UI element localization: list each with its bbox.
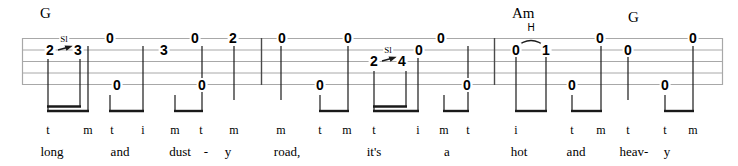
fret-number: 0 [197, 78, 208, 92]
chord-label-g-2: G [628, 10, 639, 25]
hammer-on-label: H [526, 23, 535, 33]
fret-number: 0 [660, 78, 671, 92]
lyric-syllable-hyphen: - [204, 145, 208, 158]
fingering-letter: m [439, 124, 448, 136]
lyric-word: y [225, 145, 232, 158]
fingering-letter: i [416, 124, 419, 136]
slide-label-1: Sl [59, 35, 69, 44]
fret-number: 0 [112, 78, 123, 92]
chord-label-am: Am [512, 6, 535, 21]
fret-number: 0 [462, 78, 473, 92]
fret-number: 3 [159, 43, 170, 57]
fingering-letter: m [229, 124, 238, 136]
lyric-word: hot [511, 145, 528, 158]
fret-number: 0 [105, 31, 116, 45]
fingering-letter: t [46, 124, 49, 136]
slide-arrows [58, 46, 395, 61]
lyric-word: dust [169, 145, 191, 158]
fret-number: 0 [623, 43, 634, 57]
fret-number: 2 [45, 43, 56, 57]
fingering-letter: t [199, 124, 202, 136]
chord-label-g-1: G [40, 6, 51, 21]
fingering-letter: i [514, 124, 517, 136]
fret-number: 0 [343, 31, 354, 45]
fret-number: 0 [567, 78, 578, 92]
fingering-letter: m [688, 124, 697, 136]
note-beams [47, 107, 694, 112]
lyric-word: it's [367, 145, 382, 158]
fingering-letter: t [570, 124, 573, 136]
fingering-letter: t [110, 124, 113, 136]
fingering-letter: m [596, 124, 605, 136]
slide-label-2: Sl [383, 46, 393, 55]
fingering-letter: t [372, 124, 375, 136]
fret-number: 1 [541, 43, 552, 57]
fingering-letter: t [663, 124, 666, 136]
fret-number: 0 [315, 78, 326, 92]
lyric-word: and [111, 145, 130, 158]
fret-number: 3 [73, 43, 84, 57]
fret-number: 0 [511, 43, 522, 57]
lyric-word: heav- [620, 145, 649, 158]
tablature-sheet: G Am G Sl Sl H 2 3 0 0 3 0 0 2 0 0 0 2 4… [0, 0, 738, 166]
fingering-letter: m [276, 124, 285, 136]
fingering-letter: m [83, 124, 92, 136]
lyric-word: long [40, 145, 63, 158]
fingering-letter: i [141, 124, 144, 136]
fingering-letter: t [318, 124, 321, 136]
lyric-word: y [664, 145, 671, 158]
fingering-letter: m [170, 124, 179, 136]
fret-number: 0 [414, 43, 425, 57]
fingering-letter: t [626, 124, 629, 136]
fret-number: 2 [228, 31, 239, 45]
lyric-word: and [567, 145, 586, 158]
fret-number: 2 [369, 54, 380, 68]
fingering-letter: t [466, 124, 469, 136]
fingering-letter: m [342, 124, 351, 136]
fret-number: 0 [595, 31, 606, 45]
fret-number: 0 [277, 31, 288, 45]
fret-number: 4 [397, 54, 408, 68]
fret-number: 0 [688, 31, 699, 45]
lyric-word: road, [274, 145, 300, 158]
lyric-word: a [444, 145, 450, 158]
fret-number: 0 [436, 31, 447, 45]
fret-number: 0 [190, 31, 201, 45]
